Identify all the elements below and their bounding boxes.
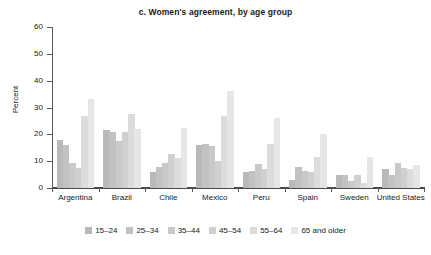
legend-swatch-icon bbox=[250, 227, 257, 234]
legend-swatch-icon bbox=[291, 227, 298, 234]
bar bbox=[134, 129, 141, 188]
bar-group bbox=[99, 27, 146, 188]
bar bbox=[181, 128, 188, 188]
x-tick-mark bbox=[99, 188, 100, 192]
legend-label: 15–24 bbox=[95, 226, 117, 235]
legend-swatch-icon bbox=[168, 227, 175, 234]
y-tick-label: 60 bbox=[0, 22, 43, 31]
bar bbox=[413, 165, 420, 188]
x-tick-mark bbox=[424, 188, 425, 192]
bar-group bbox=[331, 27, 378, 188]
bar-group bbox=[238, 27, 285, 188]
chart-legend: 15–2425–3435–4445–5455–6465 and older bbox=[0, 226, 431, 235]
bar-group bbox=[52, 27, 99, 188]
bar-group bbox=[285, 27, 332, 188]
x-tick-mark bbox=[145, 188, 146, 192]
bar bbox=[227, 91, 234, 188]
legend-item[interactable]: 15–24 bbox=[85, 226, 117, 235]
y-tick-label: 0 bbox=[0, 183, 43, 192]
chart-title: c. Women's agreement, by age group bbox=[0, 7, 431, 17]
y-tick-label: 40 bbox=[0, 76, 43, 85]
legend-item[interactable]: 35–44 bbox=[168, 226, 200, 235]
y-tick-label: 20 bbox=[0, 129, 43, 138]
legend-item[interactable]: 45–54 bbox=[209, 226, 241, 235]
chart-figure: c. Women's agreement, by age group Perce… bbox=[0, 0, 431, 255]
x-axis-category-label: United States bbox=[372, 193, 431, 203]
legend-label: 45–54 bbox=[219, 226, 241, 235]
bar bbox=[367, 157, 374, 188]
y-tick-label: 30 bbox=[0, 103, 43, 112]
legend-label: 55–64 bbox=[260, 226, 282, 235]
bar-group bbox=[378, 27, 425, 188]
bar bbox=[274, 118, 281, 188]
legend-label: 35–44 bbox=[178, 226, 200, 235]
bar-group bbox=[192, 27, 239, 188]
x-tick-mark bbox=[285, 188, 286, 192]
bar-group bbox=[145, 27, 192, 188]
x-tick-mark bbox=[192, 188, 193, 192]
x-tick-mark bbox=[331, 188, 332, 192]
bar bbox=[88, 99, 95, 188]
legend-label: 25–34 bbox=[136, 226, 158, 235]
plot-area bbox=[52, 27, 424, 188]
legend-item[interactable]: 55–64 bbox=[250, 226, 282, 235]
x-tick-mark bbox=[238, 188, 239, 192]
legend-item[interactable]: 65 and older bbox=[291, 226, 345, 235]
legend-swatch-icon bbox=[126, 227, 133, 234]
y-tick-label: 50 bbox=[0, 49, 43, 58]
legend-label: 65 and older bbox=[301, 226, 345, 235]
legend-item[interactable]: 25–34 bbox=[126, 226, 158, 235]
legend-swatch-icon bbox=[209, 227, 216, 234]
x-tick-mark bbox=[378, 188, 379, 192]
legend-swatch-icon bbox=[85, 227, 92, 234]
x-tick-mark bbox=[52, 188, 53, 192]
y-tick-label: 10 bbox=[0, 156, 43, 165]
bar bbox=[320, 134, 327, 188]
